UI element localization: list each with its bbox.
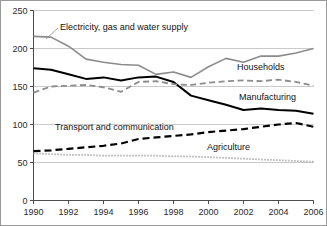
axes <box>34 11 314 201</box>
x-tick-label: 2004 <box>268 207 288 217</box>
y-axis-tick-labels: 050100150200250 <box>12 6 27 206</box>
x-tick-label: 1998 <box>163 207 183 217</box>
series-label: Households <box>237 62 285 72</box>
y-tick-label: 250 <box>12 6 27 16</box>
series-annotations: Electricity, gas and water supplyHouseho… <box>46 22 296 152</box>
x-tick-label: 1996 <box>128 207 148 217</box>
x-axis-tick-labels: 199019921994199619982000200220042006 <box>23 207 323 217</box>
x-tick-label: 2002 <box>233 207 253 217</box>
y-tick-label: 50 <box>17 158 27 168</box>
x-tick-label: 1992 <box>58 207 78 217</box>
gridlines <box>34 11 314 201</box>
y-tick-label: 100 <box>12 120 27 130</box>
y-tick-label: 0 <box>22 196 27 206</box>
y-tick-label: 200 <box>12 44 27 54</box>
series-label: Manufacturing <box>239 92 296 102</box>
x-tick-label: 2006 <box>303 207 323 217</box>
line-chart-figure: 050100150200250 199019921994199619982000… <box>0 0 327 226</box>
series-label: Agriculture <box>207 142 250 152</box>
x-tick-label: 2000 <box>198 207 218 217</box>
series-line <box>34 153 314 161</box>
tick-marks <box>30 11 314 205</box>
chart-canvas: 050100150200250 199019921994199619982000… <box>0 0 327 226</box>
x-tick-label: 1990 <box>23 207 43 217</box>
series-label: Electricity, gas and water supply <box>60 22 188 32</box>
x-tick-label: 1994 <box>93 207 113 217</box>
series-label: Transport and communication <box>55 122 174 132</box>
y-tick-label: 150 <box>12 82 27 92</box>
